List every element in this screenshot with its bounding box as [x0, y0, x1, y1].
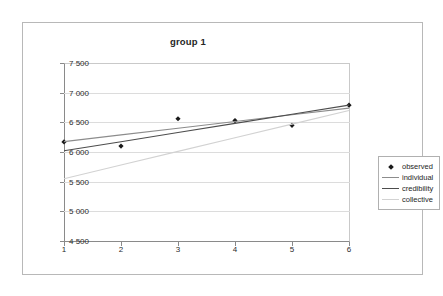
- y-axis-tick-label: 6 000: [49, 148, 89, 157]
- x-axis-tick-mark: [349, 242, 350, 246]
- x-axis-tick-label: 1: [62, 245, 66, 254]
- legend-label: collective: [400, 195, 433, 204]
- y-axis-tick-label: 5 000: [49, 207, 89, 216]
- chart-screenshot: group 1 4 5005 0005 5006 0006 5007 0007 …: [0, 0, 443, 296]
- x-axis-tick-label: 4: [233, 245, 237, 254]
- line-swatch: [382, 199, 399, 200]
- y-axis-tick-mark: [60, 182, 64, 183]
- legend-item: individual: [381, 172, 436, 183]
- diamond-shape: [388, 164, 394, 170]
- data-point-observed: [232, 118, 237, 123]
- legend-label: observed: [400, 162, 433, 171]
- x-axis-tick-mark: [292, 242, 293, 246]
- x-axis-tick-mark: [235, 242, 236, 246]
- legend-item: observed: [381, 161, 436, 172]
- series-line-individual: [64, 108, 349, 142]
- x-axis-tick-label: 3: [176, 245, 180, 254]
- line-swatch-icon: [381, 177, 400, 178]
- y-axis-tick-mark: [60, 63, 64, 64]
- legend-label: credibility: [400, 184, 433, 193]
- diamond-marker-icon: [381, 165, 400, 169]
- y-axis-tick-label: 4 500: [49, 237, 89, 246]
- x-axis-tick-mark: [178, 242, 179, 246]
- y-axis-tick-mark: [60, 152, 64, 153]
- plot-area: [64, 63, 350, 242]
- data-point-observed: [175, 116, 180, 121]
- series-line-collective: [64, 110, 349, 178]
- x-axis-tick-label: 6: [347, 245, 351, 254]
- line-swatch-icon: [381, 199, 400, 200]
- y-axis-tick-label: 7 500: [49, 59, 89, 68]
- x-axis-tick-label: 5: [290, 245, 294, 254]
- y-axis-tick-mark: [60, 93, 64, 94]
- legend-item: collective: [381, 194, 436, 205]
- chart-legend: observedindividualcredibilitycollective: [378, 156, 440, 210]
- legend-item: credibility: [381, 183, 436, 194]
- legend-label: individual: [400, 173, 433, 182]
- y-axis-tick-mark: [60, 122, 64, 123]
- x-axis-tick-mark: [121, 242, 122, 246]
- y-axis-tick-label: 6 500: [49, 118, 89, 127]
- x-axis-tick-label: 2: [119, 245, 123, 254]
- x-axis-tick-mark: [64, 242, 65, 246]
- data-point-observed: [118, 143, 123, 148]
- line-swatch: [382, 188, 399, 189]
- chart-title: group 1: [23, 36, 353, 47]
- chart-frame: group 1 4 5005 0005 5006 0006 5007 0007 …: [22, 22, 423, 275]
- y-axis-tick-mark: [60, 211, 64, 212]
- line-swatch: [382, 177, 399, 178]
- data-series-layer: [64, 63, 350, 242]
- line-swatch-icon: [381, 188, 400, 189]
- series-line-credibility: [64, 105, 349, 151]
- y-axis-tick-label: 7 000: [49, 88, 89, 97]
- y-axis-tick-label: 5 500: [49, 177, 89, 186]
